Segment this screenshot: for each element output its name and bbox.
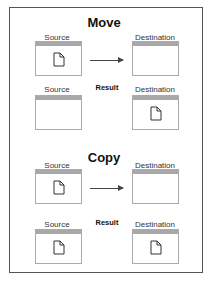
copy-arrow	[90, 188, 123, 189]
move-arrow	[90, 60, 123, 61]
move-destination-window	[132, 41, 179, 76]
move-result-label: Result	[82, 83, 132, 92]
move-result-source-window	[35, 95, 82, 130]
file-icon	[150, 240, 162, 255]
file-icon	[53, 240, 65, 255]
move-title: Move	[0, 15, 208, 30]
copy-result-source-window	[35, 229, 82, 264]
file-icon	[150, 106, 162, 121]
move-result-destination-window	[132, 95, 179, 130]
copy-result-destination-label: Destination	[130, 220, 180, 229]
move-source-window	[35, 41, 82, 76]
copy-result-destination-window	[132, 229, 179, 264]
copy-result-label: Result	[82, 218, 132, 227]
copy-destination-window	[132, 169, 179, 204]
copy-result-source-label: Source	[32, 220, 82, 229]
file-icon	[53, 180, 65, 195]
copy-source-window	[35, 169, 82, 204]
move-result-destination-label: Destination	[130, 85, 180, 94]
move-result-source-label: Source	[32, 85, 82, 94]
file-icon	[53, 52, 65, 67]
